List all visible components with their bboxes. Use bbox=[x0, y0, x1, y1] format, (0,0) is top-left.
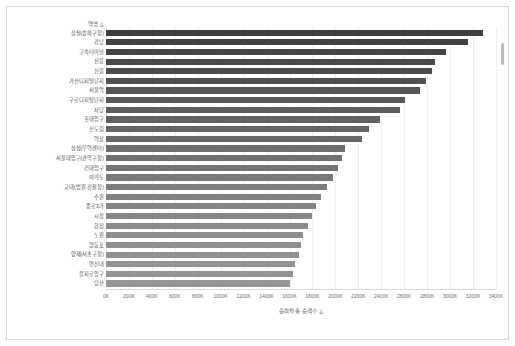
chart-container: 역명⇊ 잠실(송파구청)강남고속터미널선릉신림가산디지털단지서울역구로디지털단지… bbox=[6, 6, 509, 340]
bar-row[interactable]: 홍대입구 bbox=[7, 115, 508, 123]
bar-category-label: 신도림 bbox=[14, 125, 104, 133]
bar-category-label: 고속터미널 bbox=[14, 48, 104, 56]
plot-area: 역명⇊ 잠실(송파구청)강남고속터미널선릉신림가산디지털단지서울역구로디지털단지… bbox=[7, 7, 508, 339]
sort-descending-icon-x[interactable]: ⇊ bbox=[319, 307, 323, 315]
x-axis-line bbox=[106, 289, 496, 290]
bar-row[interactable]: 잠실(송파구청) bbox=[7, 29, 508, 37]
bar[interactable] bbox=[106, 213, 312, 219]
x-axis-title[interactable]: 승하차 총 승객수⇊ bbox=[106, 307, 496, 315]
bar-row[interactable]: 역삼 bbox=[7, 135, 508, 143]
bar[interactable] bbox=[106, 242, 301, 248]
x-tick-label: 1000K bbox=[213, 293, 227, 299]
x-axis-title-label: 승하차 총 승객수 bbox=[279, 308, 317, 314]
bar-row[interactable]: 고속터미널 bbox=[7, 48, 508, 56]
bar-row[interactable]: 교대(법원.검찰청) bbox=[7, 183, 508, 191]
bar-category-label: 수원 bbox=[14, 193, 104, 201]
bar-row[interactable]: 시청 bbox=[7, 212, 508, 220]
bar-category-label: 가산디지털단지 bbox=[14, 77, 104, 85]
x-tick-label: 600K bbox=[169, 293, 181, 299]
bar[interactable] bbox=[106, 126, 369, 132]
x-tick-label: 1600K bbox=[282, 293, 296, 299]
bar[interactable] bbox=[106, 136, 362, 142]
bar-category-label: 선릉 bbox=[14, 57, 104, 65]
bar-category-label: 영등포 bbox=[14, 241, 104, 249]
y-axis-title[interactable]: 역명⇊ bbox=[14, 20, 104, 28]
bar-category-label: 강남 bbox=[14, 38, 104, 46]
bar[interactable] bbox=[106, 155, 342, 161]
bar-category-label: 교대(법원.검찰청) bbox=[14, 183, 104, 191]
bar-row[interactable]: 종로3가 bbox=[7, 202, 508, 210]
bar-category-label: 서울대입구(관악구청) bbox=[14, 154, 104, 162]
bar-category-label: 시청 bbox=[14, 212, 104, 220]
bar-row[interactable]: 을지로입구 bbox=[7, 270, 508, 278]
x-tick-label: 1200K bbox=[236, 293, 250, 299]
bar[interactable] bbox=[106, 184, 327, 190]
bar[interactable] bbox=[106, 232, 303, 238]
x-tick-label: 1400K bbox=[259, 293, 273, 299]
bar[interactable] bbox=[106, 261, 295, 267]
x-tick-label: 2400K bbox=[374, 293, 388, 299]
bar[interactable] bbox=[106, 165, 338, 171]
bar-category-label: 당산 bbox=[14, 279, 104, 287]
bar-row[interactable]: 서울역 bbox=[7, 86, 508, 94]
bar[interactable] bbox=[106, 252, 299, 258]
bar-row[interactable]: 선릉 bbox=[7, 57, 508, 65]
bar[interactable] bbox=[106, 49, 446, 55]
bar[interactable] bbox=[106, 68, 432, 74]
bar[interactable] bbox=[106, 271, 293, 277]
bar-row[interactable]: 연신내 bbox=[7, 260, 508, 268]
bar[interactable] bbox=[106, 174, 333, 180]
bar-category-label: 홍대입구 bbox=[14, 115, 104, 123]
bar[interactable] bbox=[106, 145, 345, 151]
bar-row[interactable]: 가산디지털단지 bbox=[7, 77, 508, 85]
bar[interactable] bbox=[106, 97, 405, 103]
bar-row[interactable]: 사당 bbox=[7, 106, 508, 114]
bar-category-label: 양재(서초구청) bbox=[14, 250, 104, 258]
bar-row[interactable]: 강남 bbox=[7, 38, 508, 46]
bar-row[interactable]: 당산 bbox=[7, 279, 508, 287]
bar[interactable] bbox=[106, 39, 468, 45]
bar-category-label: 합정 bbox=[14, 222, 104, 230]
x-tick-label: 3000K bbox=[443, 293, 457, 299]
sort-descending-icon[interactable]: ⇊ bbox=[100, 19, 104, 29]
bar-category-label: 삼성(무역센터) bbox=[14, 144, 104, 152]
bar-category-label: 건대입구 bbox=[14, 164, 104, 172]
bar[interactable] bbox=[106, 194, 321, 200]
bar[interactable] bbox=[106, 223, 308, 229]
bar[interactable] bbox=[106, 116, 380, 122]
bar-row[interactable]: 신림 bbox=[7, 67, 508, 75]
bar[interactable] bbox=[106, 203, 316, 209]
bar-category-label: 연신내 bbox=[14, 260, 104, 268]
x-tick-label: 2600K bbox=[397, 293, 411, 299]
bar[interactable] bbox=[106, 59, 435, 65]
bar-category-label: 종로3가 bbox=[14, 202, 104, 210]
bar-row[interactable]: 양재(서초구청) bbox=[7, 250, 508, 258]
bar-row[interactable]: 삼성(무역센터) bbox=[7, 144, 508, 152]
bar-category-label: 여의도 bbox=[14, 173, 104, 181]
bar-row[interactable]: 합정 bbox=[7, 222, 508, 230]
x-tick-label: 0K bbox=[103, 293, 109, 299]
bar-row[interactable]: 노원 bbox=[7, 231, 508, 239]
bar-category-label: 서울역 bbox=[14, 86, 104, 94]
x-tick-label: 400K bbox=[146, 293, 158, 299]
bar-category-label: 노원 bbox=[14, 231, 104, 239]
bar-row[interactable]: 영등포 bbox=[7, 241, 508, 249]
bar-row[interactable]: 신도림 bbox=[7, 125, 508, 133]
bar-row[interactable]: 서울대입구(관악구청) bbox=[7, 154, 508, 162]
vertical-scrollbar-track[interactable] bbox=[502, 17, 506, 335]
bar-category-label: 구로디지털단지 bbox=[14, 96, 104, 104]
bar-row[interactable]: 건대입구 bbox=[7, 164, 508, 172]
bar-row[interactable]: 수원 bbox=[7, 193, 508, 201]
bar[interactable] bbox=[106, 87, 420, 93]
bar[interactable] bbox=[106, 107, 400, 113]
x-tick-label: 2800K bbox=[420, 293, 434, 299]
bar[interactable] bbox=[106, 280, 290, 286]
vertical-scrollbar-thumb[interactable] bbox=[501, 43, 504, 65]
bar-row[interactable]: 여의도 bbox=[7, 173, 508, 181]
x-tick-label: 2200K bbox=[351, 293, 365, 299]
x-tick-label: 3200K bbox=[466, 293, 480, 299]
bar[interactable] bbox=[106, 30, 483, 36]
bar-category-label: 잠실(송파구청) bbox=[14, 29, 104, 37]
bar[interactable] bbox=[106, 78, 426, 84]
bar-row[interactable]: 구로디지털단지 bbox=[7, 96, 508, 104]
